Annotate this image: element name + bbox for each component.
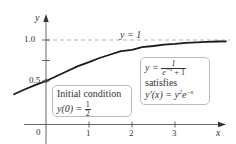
fraction-denominator: 2	[85, 110, 91, 118]
y-tick-label-0.5: 0.5	[29, 76, 40, 85]
differential-equation: y′(x) = y2e−x	[145, 90, 205, 100]
x-axis-label: x	[216, 128, 220, 138]
y-tick-label-1.0: 1.0	[24, 35, 35, 44]
initial-condition-box: Initial condition y(0) = 1 2	[52, 85, 132, 117]
initial-point	[44, 79, 48, 83]
asymptote-label: y = 1	[120, 30, 141, 40]
x-tick-label-2: 2	[129, 129, 134, 138]
y-axis-arrow-icon	[43, 14, 48, 22]
initial-condition-lhs: y(0) =	[57, 103, 82, 114]
satisfies-text: satisfies	[145, 78, 205, 88]
solution-lhs: y =	[145, 62, 159, 73]
solution-denominator: e−x + 1	[161, 69, 186, 77]
initial-condition-equation: y(0) = 1 2	[57, 101, 127, 118]
initial-condition-title: Initial condition	[57, 89, 127, 99]
solution-box: y = 1 e−x + 1 satisfies y′(x) = y2e−x	[140, 57, 210, 105]
one-half-fraction: 1 2	[85, 101, 91, 118]
sigmoid-solution-figure: y x 0 1 2 3 1.0 0.5 y = 1 Initial condit…	[0, 0, 236, 144]
solution-fraction: 1 e−x + 1	[161, 60, 186, 77]
x-tick-label-3: 3	[172, 129, 177, 138]
y-axis-label: y	[35, 13, 39, 23]
origin-label: 0	[36, 128, 41, 137]
solution-equation: y = 1 e−x + 1	[145, 60, 205, 77]
x-tick-label-1: 1	[86, 129, 91, 138]
